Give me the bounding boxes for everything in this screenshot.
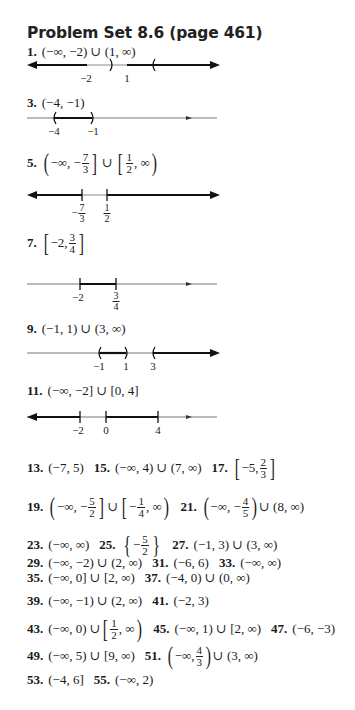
tick-label: 12: [103, 203, 112, 224]
denominator: 3: [83, 164, 89, 175]
numerator: 7: [82, 152, 90, 164]
answer-text: (−∞, 4) ∪ (7, ∞): [115, 460, 202, 476]
tick-label: −73: [71, 203, 86, 224]
tick-label: −1: [93, 360, 105, 372]
number-line-11: −2 0 4: [27, 410, 192, 450]
close-paren: ): [163, 494, 168, 520]
denominator: 3: [80, 214, 85, 224]
tick-label: 1: [124, 72, 130, 84]
open-bracket: [: [122, 494, 127, 520]
answer-row-35: 35. (−∞, 0] ∪ [2, ∞) 37. (−4, 0) ∪ (0, ∞…: [27, 570, 250, 586]
numerator: 4: [242, 496, 250, 508]
open-bracket: [: [102, 616, 107, 642]
page-title: Problem Set 8.6 (page 461): [27, 24, 262, 42]
answer-row-43: 43. (−∞, 0) ∪ [ 12 , ∞ ) 45. (−∞, 1) ∪ […: [27, 616, 335, 642]
denominator: 4: [114, 302, 119, 312]
answer-text: (−1, 1) ∪ (3, ∞): [42, 321, 126, 337]
fraction: 34: [69, 232, 77, 255]
answer-number: 21.: [180, 499, 196, 515]
answer-text: (−∞, 0) ∪: [48, 621, 100, 637]
close-bracket: ]: [92, 150, 97, 176]
answer-number: 25.: [99, 537, 115, 553]
number-line-1: −2 1: [27, 58, 192, 98]
numerator: 4: [196, 645, 204, 657]
open-bracket: [: [235, 455, 240, 481]
answer-9: 9. (−1, 1) ∪ (3, ∞): [27, 321, 126, 337]
fraction: 12: [126, 152, 134, 175]
answer-number: 35.: [27, 570, 43, 586]
answer-text: ∪ (8, ∞): [259, 499, 304, 515]
open-bracket: [: [43, 230, 48, 256]
answer-text: −: [133, 537, 140, 553]
answer-number: 31.: [152, 555, 168, 571]
answer-number: 53.: [27, 672, 43, 688]
fraction: 23: [260, 457, 268, 480]
fraction: 52: [141, 534, 149, 557]
answer-text: (−∞, −2] ∪ [0, 4]: [48, 383, 139, 399]
answer-text: ∪ (3, ∞): [213, 648, 258, 664]
answer-number: 7.: [27, 235, 37, 251]
answer-number: 55.: [94, 672, 110, 688]
numerator: 1: [137, 496, 145, 508]
numerator: 2: [260, 457, 268, 469]
denominator: 2: [127, 164, 133, 175]
close-bracket: ]: [79, 230, 84, 256]
fraction: 52: [88, 496, 96, 519]
answer-text: −∞, −: [57, 499, 87, 515]
answer-number: 47.: [271, 621, 287, 637]
answer-text: , ∞: [134, 155, 150, 171]
answer-row-19: 19. ( −∞, − 52 ] ∪ [ − 14 , ∞ ) 21. ( −∞…: [27, 494, 304, 520]
answer-number: 5.: [27, 155, 37, 171]
close-paren: ): [252, 494, 257, 520]
answer-text: (−∞, 0] ∪ [2, ∞): [48, 570, 135, 586]
number-line-7: −2 34: [27, 277, 192, 322]
answer-number: 41.: [152, 593, 168, 609]
tick-label: −1: [87, 125, 99, 137]
answer-text: −: [129, 499, 136, 515]
answer-number: 51.: [145, 648, 161, 664]
open-bracket: [: [118, 150, 123, 176]
denominator: 2: [111, 630, 117, 641]
number-line-5: −73 12: [27, 188, 192, 233]
close-bracket: ]: [99, 494, 104, 520]
tick-label: 1: [123, 360, 129, 372]
answer-text: (−∞, −1) ∪ (2, ∞): [48, 593, 142, 609]
answer-text: (−4, −1): [42, 95, 85, 111]
answer-row-49: 49. (−∞, 5) ∪ [9, ∞) 51. ( −∞, 43 ) ∪ (3…: [27, 643, 258, 669]
numerator: 5: [88, 496, 96, 508]
answer-text: (−4, 0) ∪ (0, ∞): [166, 570, 250, 586]
close-paren: ): [152, 150, 157, 176]
answer-text: (−2, 3): [173, 593, 209, 609]
answer-5: 5. ( −∞, − 73 ] ∪ [ 12 , ∞ ): [27, 150, 159, 176]
answer-number: 27.: [172, 537, 188, 553]
answer-number: 23.: [27, 537, 43, 553]
answer-text: −∞, −: [50, 155, 80, 171]
numerator: 5: [141, 534, 149, 546]
tick-label: 3: [150, 360, 156, 372]
answer-row-53: 53. (−4, 6] 55. (−∞, 2): [27, 672, 153, 688]
answer-text: , ∞: [146, 499, 162, 515]
denominator: 4: [138, 508, 144, 519]
sign: −: [71, 206, 77, 218]
answer-number: 3.: [27, 95, 37, 111]
answer-text: −∞, −: [210, 499, 240, 515]
fraction: 45: [242, 496, 250, 519]
answer-text: −5,: [242, 460, 259, 476]
answer-text: −2,: [50, 235, 67, 251]
answer-text: , ∞: [119, 621, 135, 637]
numerator: 1: [110, 618, 118, 630]
answer-text: (−1, 3) ∪ (3, ∞): [194, 537, 278, 553]
answer-row-29: 29. (−∞, −2) ∪ (2, ∞) 31. (−6, 6) 33. (−…: [27, 555, 281, 571]
open-paren: (: [168, 643, 173, 669]
denominator: 4: [70, 244, 76, 255]
fraction: 12: [110, 618, 118, 641]
answer-number: 33.: [219, 555, 235, 571]
answer-text: (−∞, ∞): [240, 555, 281, 571]
tick-label: 34: [112, 291, 121, 312]
answer-text: (−7, 5): [48, 460, 84, 476]
answer-number: 13.: [27, 460, 43, 476]
union-symbol: ∪: [102, 155, 113, 171]
open-paren: (: [43, 150, 48, 176]
close-paren: ): [136, 616, 141, 642]
answer-row-39: 39. (−∞, −1) ∪ (2, ∞) 41. (−2, 3): [27, 593, 209, 609]
